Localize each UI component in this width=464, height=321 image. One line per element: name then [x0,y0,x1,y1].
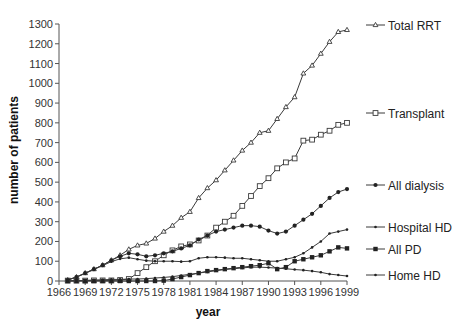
legend-label: Home HD [388,269,441,283]
legend-label: Total RRT [388,19,442,33]
x-tick-label: 1978 [151,286,175,298]
x-axis-title: year [196,305,221,319]
legend-label: Transplant [388,107,445,121]
x-tick-label: 1966 [47,286,71,298]
y-tick-label: 200 [35,235,53,247]
series-layer [65,27,349,283]
legend: Total RRTTransplantAll dialysisHospital … [366,19,452,283]
y-tick-label: 1300 [29,18,53,30]
y-tick-label: 700 [35,137,53,149]
legend-item-all-dialysis: All dialysis [366,179,444,193]
legend-item-all-pd: All PD [366,243,422,257]
x-tick-label: 1981 [178,286,202,298]
y-tick-label: 900 [35,97,53,109]
legend-label: Hospital HD [388,221,452,235]
x-tick-label: 1987 [230,286,254,298]
legend-label: All dialysis [388,179,444,193]
y-axis: 0100200300400500600700800900100011001200… [29,18,59,287]
y-tick-label: 500 [35,176,53,188]
y-tick-label: 300 [35,216,53,228]
legend-item-home-hd: Home HD [366,269,441,283]
legend-item-total-rrt: Total RRT [366,19,442,33]
y-axis-title: number of patients [7,96,21,204]
y-tick-label: 800 [35,117,53,129]
x-tick-label: 1990 [256,286,280,298]
y-tick-label: 600 [35,156,53,168]
y-tick-label: 100 [35,255,53,267]
x-tick-label: 1969 [73,286,97,298]
y-tick-label: 400 [35,196,53,208]
x-tick-label: 1984 [204,286,228,298]
legend-item-transplant: Transplant [366,107,445,121]
y-tick-label: 1200 [29,38,53,50]
series-home-hd [66,266,348,282]
x-tick-label: 1999 [335,286,359,298]
line-chart: 0100200300400500600700800900100011001200… [0,0,464,321]
y-tick-label: 1100 [29,58,53,70]
legend-item-hospital-hd: Hospital HD [366,221,452,235]
x-tick-label: 1993 [282,286,306,298]
y-tick-label: 1000 [29,77,53,89]
x-tick-label: 1972 [99,286,123,298]
legend-label: All PD [388,243,422,257]
series-all-dialysis [66,187,349,282]
series-total-rrt [65,27,349,281]
x-tick-label: 1996 [309,286,333,298]
x-axis: 1966196919721975197819811984198719901993… [47,281,359,298]
x-tick-label: 1975 [125,286,149,298]
